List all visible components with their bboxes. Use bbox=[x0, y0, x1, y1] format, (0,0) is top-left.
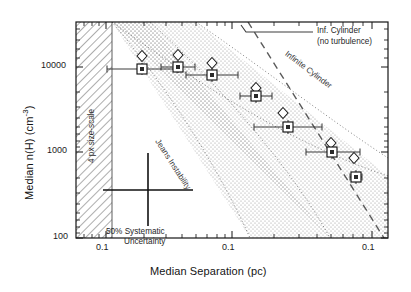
legend-sample-line bbox=[241, 25, 313, 32]
y-tick-label-100: 100 bbox=[53, 232, 68, 242]
figure-root: 0.1 0.1 0.1 10000 1000 100 Median Separa… bbox=[0, 0, 411, 292]
x-tick-label-3: 0.1 bbox=[362, 243, 375, 253]
x-tick-label-1: 0.1 bbox=[96, 243, 109, 253]
y-tick-label-10000: 10000 bbox=[41, 61, 66, 71]
annotation-size-scale: 4 px size-scale bbox=[88, 109, 97, 163]
annotation-systematic-line1: 50% Systematic bbox=[106, 228, 165, 237]
x-axis-title: Median Separation (pc) bbox=[150, 266, 267, 278]
systematic-uncertainty-cross bbox=[103, 153, 193, 226]
y-axis-title-tail: ) bbox=[23, 106, 35, 110]
legend-label-inf-cylinder: Inf. Cylinder bbox=[317, 27, 361, 36]
legend-label-no-turbulence: (no turbulence) bbox=[317, 38, 372, 47]
x-tick-label-2: 0.1 bbox=[222, 243, 235, 253]
annotation-systematic-line2: Uncertainty bbox=[124, 238, 165, 247]
y-axis-title: Median n(H) (cm-3) bbox=[22, 106, 36, 200]
y-axis-title-main: Median n(H) (cm bbox=[23, 117, 35, 200]
band-layer bbox=[76, 22, 388, 238]
y-tick-label-1000: 1000 bbox=[47, 146, 67, 156]
y-axis-title-sup: -3 bbox=[21, 109, 30, 116]
